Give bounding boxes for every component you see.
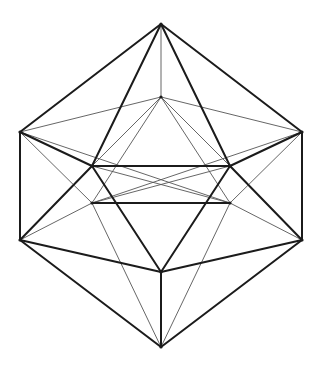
vertex-upper-left <box>18 130 21 133</box>
vertex-inner-top <box>159 95 162 98</box>
vertex-band-lower-left <box>90 201 93 204</box>
vertex-lower-right <box>300 238 303 241</box>
vertex-inner-bottom <box>159 270 162 273</box>
vertex-upper-right <box>300 130 303 133</box>
vertex-band-lower-right <box>228 201 231 204</box>
vertex-lower-left <box>18 238 21 241</box>
figure-canvas: Icosahedron wireframe Line drawing of a … <box>0 0 322 369</box>
polyhedron-wireframe: Icosahedron wireframe Line drawing of a … <box>0 0 322 369</box>
vertex-top-apex <box>159 22 162 25</box>
vertex-bottom-apex <box>159 345 162 348</box>
vertex-band-upper-left <box>90 164 93 167</box>
vertex-band-upper-right <box>228 164 231 167</box>
